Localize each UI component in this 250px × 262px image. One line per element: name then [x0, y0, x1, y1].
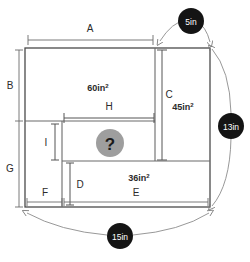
internal-division-lines: [25, 48, 210, 207]
badge-5in-label: 5in: [185, 17, 197, 27]
area-label-36: 36in2: [128, 173, 150, 183]
area-45-value: 45: [172, 102, 182, 112]
svg-text:60in2: 60in2: [87, 83, 109, 93]
dimension-label-I: I: [45, 137, 48, 148]
dimension-label-A: A: [87, 23, 94, 34]
area-45-unit: in: [182, 102, 190, 112]
dimension-I: [51, 124, 59, 160]
area-36-exponent: 2: [146, 173, 150, 179]
diagram-canvas: 60in2 45in2 36in2 ? A: [0, 0, 250, 262]
callout-13in: 13in: [212, 49, 244, 206]
unknown-question-mark: ?: [105, 135, 115, 154]
dimension-A: [28, 35, 153, 45]
dimension-C: [157, 50, 167, 160]
svg-text:36in2: 36in2: [128, 173, 150, 183]
dimension-B: [15, 50, 23, 121]
dimension-E: [64, 198, 208, 206]
badge-15in-label: 15in: [112, 232, 128, 242]
main-rectangle-outline: [25, 48, 210, 207]
callout-15in: 15in: [27, 213, 209, 249]
dimension-label-F: F: [42, 187, 48, 198]
dimension-label-D: D: [76, 179, 83, 190]
dimension-label-H: H: [105, 101, 112, 112]
dimension-label-C: C: [165, 89, 172, 100]
dimension-F: [27, 198, 62, 206]
badge-13in-label: 13in: [223, 122, 239, 132]
dimension-label-G: G: [6, 163, 14, 174]
area-36-value: 36: [128, 173, 138, 183]
dimension-label-E: E: [133, 187, 140, 198]
area-36-unit: in: [138, 173, 146, 183]
area-60-value: 60: [87, 83, 97, 93]
dimension-G: [15, 121, 23, 207]
area-60-exponent: 2: [105, 83, 109, 89]
area-45-exponent: 2: [190, 102, 194, 108]
callout-5in: 5in: [160, 8, 210, 42]
area-60-unit: in: [97, 83, 105, 93]
unknown-area-marker: ?: [96, 129, 124, 157]
area-label-45: 45in2: [172, 102, 194, 112]
area-label-60: 60in2: [87, 83, 109, 93]
dimension-label-B: B: [7, 80, 14, 91]
dimension-D: [66, 163, 74, 205]
svg-text:45in2: 45in2: [172, 102, 194, 112]
